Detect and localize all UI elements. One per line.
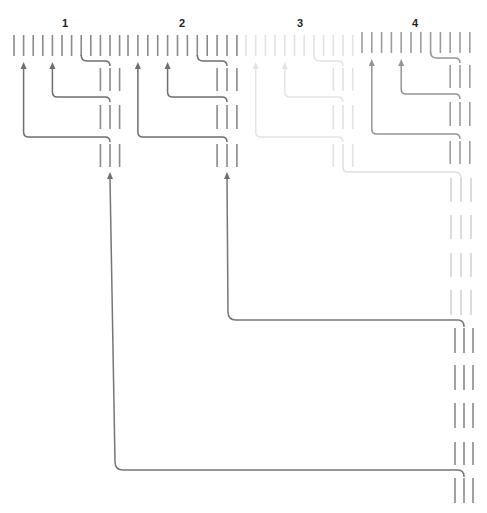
group-4-connector-line [401, 66, 460, 99]
group-label-4: 4 [412, 16, 418, 30]
group-3-hook-connector [314, 55, 343, 66]
arrow-up-icon [253, 62, 259, 69]
group-1-hook-connector [81, 55, 110, 66]
group-4-hook-connector [431, 52, 460, 63]
group-4-connector-line [372, 66, 460, 139]
arrow-up-icon [224, 172, 230, 179]
long-connector-group-2 [227, 179, 464, 327]
arrow-up-icon [49, 62, 55, 69]
long-connector-group-1 [110, 179, 464, 477]
group-label-2: 2 [179, 16, 185, 30]
long-connector-group-3 [343, 166, 461, 179]
arrow-up-icon [21, 62, 27, 69]
group-1-connector-line [52, 69, 110, 102]
arrow-up-icon [398, 59, 404, 66]
arrow-up-icon [107, 172, 113, 179]
group-2-connector-line [168, 69, 227, 102]
group-3-connector-line [285, 69, 343, 102]
group-2-hook-connector [197, 55, 227, 66]
group-label-3: 3 [297, 16, 303, 30]
arrow-up-icon [135, 62, 141, 69]
bit-routing-diagram [0, 0, 487, 513]
arrow-up-icon [165, 62, 171, 69]
arrow-up-icon [282, 62, 288, 69]
group-label-1: 1 [62, 16, 68, 30]
group-1-connector-line [24, 69, 110, 142]
group-2-connector-line [138, 69, 227, 142]
arrow-up-icon [369, 59, 375, 66]
group-3-connector-line [256, 69, 343, 142]
